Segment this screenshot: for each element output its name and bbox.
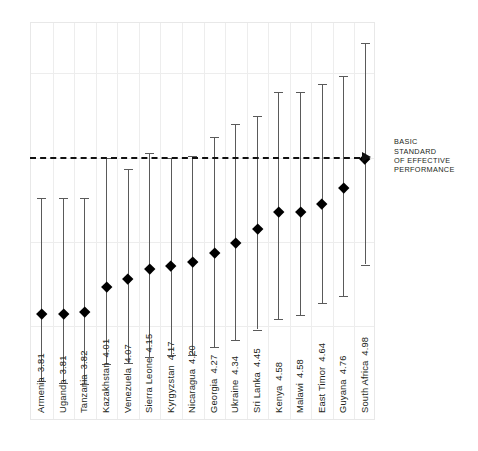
x-axis-label-name: Nicaragua: [186, 369, 197, 413]
error-bar-cap-upper: [145, 153, 154, 154]
error-bar-cap-lower: [361, 265, 370, 266]
x-axis-label-value: 4.15: [143, 334, 154, 353]
x-axis-label: Kazakhstan4.01: [100, 339, 111, 413]
x-axis-label-name: Venezuela: [122, 368, 133, 413]
data-marker[interactable]: [36, 308, 47, 319]
x-axis-label-name: Kazakhstan: [100, 363, 111, 414]
data-point-group[interactable]: Malawi4.58: [290, 23, 312, 419]
data-marker[interactable]: [187, 256, 198, 267]
data-marker[interactable]: [58, 308, 69, 319]
x-axis-label-name: Malawi: [294, 383, 305, 413]
x-axis-label-value: 3.81: [35, 353, 46, 372]
x-axis-label-name: Georgia: [208, 379, 219, 413]
x-axis-label-value: 4.76: [337, 355, 348, 374]
data-point-group[interactable]: Kyrgyzstan4.17: [160, 23, 182, 419]
reference-arrow-icon: [362, 152, 371, 162]
x-axis-label-name: Sri Lanka: [251, 372, 262, 413]
x-axis-label: Venezuela4.07: [122, 344, 133, 413]
x-axis-label-name: Kyrgyzstan: [165, 365, 176, 413]
data-marker[interactable]: [144, 263, 155, 274]
x-axis-label: Uganda3.81: [57, 355, 68, 413]
reference-line-label-line: STANDARD: [394, 147, 455, 156]
x-axis-label-name: East Timor: [316, 367, 327, 413]
data-marker[interactable]: [231, 238, 242, 249]
x-axis-label: Ukraine4.34: [229, 356, 240, 413]
data-marker[interactable]: [166, 260, 177, 271]
data-point-group[interactable]: Armenia3.81: [31, 23, 53, 419]
data-marker[interactable]: [317, 198, 328, 209]
error-bar: [149, 153, 150, 357]
data-point-group[interactable]: Ukraine4.34: [225, 23, 247, 419]
data-point-group[interactable]: South Africa4.98: [354, 23, 376, 419]
x-axis-label: Malawi4.58: [294, 359, 305, 413]
error-bar-cap-upper: [274, 92, 283, 93]
x-axis-label-name: Ukraine: [229, 380, 240, 413]
error-bar: [235, 124, 236, 340]
error-bar-cap-lower: [231, 340, 240, 341]
x-axis-label-name: South Africa: [359, 361, 370, 413]
error-bar-cap-lower: [318, 303, 327, 304]
data-marker[interactable]: [209, 247, 220, 258]
data-point-group[interactable]: Kenya4.58: [268, 23, 290, 419]
x-axis-label-value: 4.34: [229, 356, 240, 375]
x-axis-label-name: Uganda: [57, 379, 68, 413]
error-bar: [300, 92, 301, 315]
error-bar-cap-upper: [210, 137, 219, 138]
error-bar-cap-lower: [274, 319, 283, 320]
x-axis-label: Sri Lanka4.45: [251, 348, 262, 413]
x-axis-label-name: Armenia: [35, 377, 46, 413]
error-bar: [322, 84, 323, 303]
error-bar-cap-lower: [253, 330, 262, 331]
error-bar-cap-upper: [37, 198, 46, 199]
x-axis-label: Sierra Leone4.15: [143, 334, 154, 413]
error-bar: [171, 158, 172, 354]
x-axis-label: Kenya4.58: [273, 362, 284, 413]
data-marker[interactable]: [295, 206, 306, 217]
data-marker[interactable]: [338, 182, 349, 193]
data-point-group[interactable]: Georgia4.27: [204, 23, 226, 419]
x-axis-label: Guyana4.76: [337, 355, 348, 413]
error-bar-cap-lower: [210, 347, 219, 348]
reference-line-label-line: BASIC: [394, 137, 455, 146]
data-point-group[interactable]: Sri Lanka4.45: [247, 23, 269, 419]
error-bar-cap-upper: [339, 76, 348, 77]
x-axis-label-value: 4.58: [294, 359, 305, 378]
error-bar-cap-upper: [361, 43, 370, 44]
error-bar-cap-upper: [124, 169, 133, 170]
reference-line-label: BASICSTANDARDOF EFFECTIVEPERFORMANCE: [394, 137, 455, 174]
x-axis-label-value: 4.27: [208, 355, 219, 374]
data-marker[interactable]: [80, 307, 91, 318]
data-marker[interactable]: [101, 282, 112, 293]
x-axis-label-value: 4.64: [316, 343, 327, 362]
data-point-group[interactable]: Nicaragua4.20: [182, 23, 204, 419]
x-axis-label-name: Sierra Leone: [143, 358, 154, 413]
reference-line-label-line: PERFORMANCE: [394, 165, 455, 174]
x-axis-label: East Timor4.64: [316, 343, 327, 413]
data-point-group[interactable]: East Timor4.64: [311, 23, 333, 419]
data-marker[interactable]: [252, 223, 263, 234]
error-bar-cap-upper: [296, 92, 305, 93]
x-axis-label-name: Kenya: [273, 386, 284, 413]
plot-area: Armenia3.81Uganda3.81Tanzania3.82Kazakhs…: [30, 22, 375, 420]
data-marker[interactable]: [274, 206, 285, 217]
error-bar-cap-upper: [231, 124, 240, 125]
data-point-group[interactable]: Sierra Leone4.15: [139, 23, 161, 419]
error-bar-cap-lower: [339, 296, 348, 297]
error-bar-cap-upper: [59, 198, 68, 199]
error-bar-cap-upper: [80, 198, 89, 199]
x-axis-label-value: 3.81: [57, 355, 68, 374]
data-point-group[interactable]: Kazakhstan4.01: [96, 23, 118, 419]
data-marker[interactable]: [123, 274, 134, 285]
reference-line-label-line: OF EFFECTIVE: [394, 156, 455, 165]
data-point-group[interactable]: Tanzania3.82: [74, 23, 96, 419]
x-axis-label-value: 4.17: [165, 341, 176, 360]
x-axis-label-value: 4.58: [273, 362, 284, 381]
reference-line: [30, 157, 360, 159]
data-point-group[interactable]: Venezuela4.07: [117, 23, 139, 419]
data-point-group[interactable]: Uganda3.81: [53, 23, 75, 419]
x-axis-label-name: Tanzania: [78, 374, 89, 413]
x-axis-label: Georgia4.27: [208, 355, 219, 413]
error-bar: [214, 137, 215, 347]
x-axis-label-name: Guyana: [337, 379, 348, 413]
data-point-group[interactable]: Guyana4.76: [333, 23, 355, 419]
